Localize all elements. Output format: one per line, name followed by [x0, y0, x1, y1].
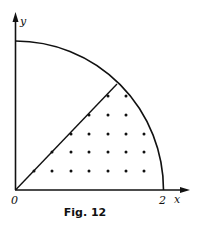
lattice-point — [125, 170, 128, 173]
lattice-point — [107, 95, 110, 98]
lattice-point — [125, 95, 128, 98]
lattice-point — [51, 151, 54, 154]
lattice-point — [51, 170, 54, 173]
lattice-point — [107, 170, 110, 173]
lattice-point — [88, 114, 91, 117]
y-axis-arrow-icon — [13, 12, 19, 22]
lattice-point — [33, 170, 36, 173]
lattice-point — [143, 170, 146, 173]
lattice-point — [143, 151, 146, 154]
figure-diagram: y x 0 2 — [0, 0, 200, 228]
lattice-point — [125, 114, 128, 117]
figure-caption: Fig. 12 — [0, 206, 170, 219]
y-axis-label: y — [19, 15, 27, 28]
lattice-point — [88, 151, 91, 154]
lattice-point — [88, 133, 91, 136]
lattice-point — [143, 133, 146, 136]
lattice-point — [107, 133, 110, 136]
lattice-point — [88, 170, 91, 173]
lattice-point — [70, 151, 73, 154]
lattice-point — [125, 133, 128, 136]
lattice-point — [107, 114, 110, 117]
lattice-point — [70, 133, 73, 136]
lattice-point — [125, 151, 128, 154]
lattice-points — [33, 95, 146, 173]
x-axis-label: x — [174, 193, 181, 206]
diagonal-line — [16, 84, 118, 190]
x-axis-arrow-icon — [180, 187, 190, 193]
lattice-point — [107, 151, 110, 154]
lattice-point — [70, 170, 73, 173]
